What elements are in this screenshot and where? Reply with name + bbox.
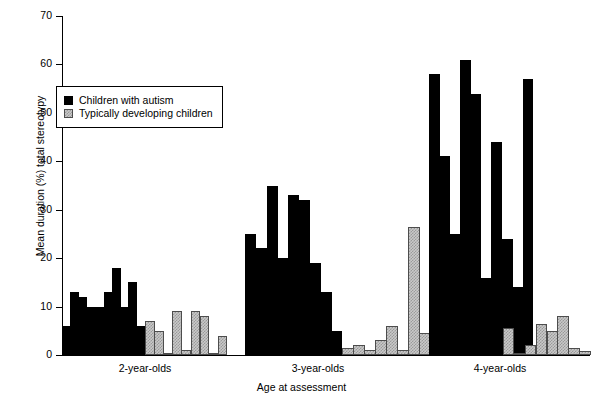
bar-autism-1-0: [245, 234, 256, 355]
bar-typical-0-3: [172, 311, 182, 355]
bar-typical-1-3: [375, 340, 387, 355]
y-tick-label-60: 60: [28, 58, 52, 68]
bar-autism-2-2: [450, 234, 461, 355]
bar-autism-1-5: [299, 200, 310, 355]
bar-typical-1-1: [353, 345, 365, 355]
bar-typical-2-6: [568, 348, 579, 355]
bar-autism-1-3: [277, 258, 288, 355]
group-label-3-year-olds: 3-year-olds: [278, 362, 358, 374]
legend-item-autism: Children with autism: [64, 95, 213, 106]
x-axis-title: Age at assessment: [0, 381, 603, 393]
bar-chart-figure: Mean duration (%) total stereotypy 01020…: [0, 0, 603, 397]
bar-typical-1-2: [364, 350, 376, 355]
group-label-2-year-olds: 2-year-olds: [105, 362, 185, 374]
y-tick-label-30: 30: [28, 204, 52, 214]
bar-autism-1-1: [256, 248, 267, 355]
bar-typical-2-4: [547, 331, 558, 355]
y-tick-label-70: 70: [28, 10, 52, 20]
bar-typical-0-1: [154, 331, 164, 355]
chart-legend: Children with autism Typically developin…: [56, 86, 223, 128]
bar-typical-0-6: [200, 316, 210, 355]
bar-typical-1-6: [408, 227, 420, 355]
y-tick-label-20: 20: [28, 252, 52, 262]
bar-autism-2-1: [439, 156, 450, 355]
bar-typical-1-4: [386, 326, 398, 355]
legend-swatch-typical-icon: [64, 109, 73, 118]
bars-layer: [62, 16, 590, 355]
bar-typical-2-3: [536, 324, 547, 355]
bar-autism-1-8: [331, 331, 342, 355]
y-tick-label-10: 10: [28, 301, 52, 311]
bar-autism-2-9: [523, 79, 534, 355]
y-tick-label-0: 0: [28, 349, 52, 359]
legend-label-autism: Children with autism: [79, 95, 174, 106]
bar-typical-2-1: [514, 353, 525, 355]
bar-typical-1-0: [342, 348, 354, 355]
bar-autism-1-7: [320, 292, 331, 355]
y-tick-label-40: 40: [28, 155, 52, 165]
bar-autism-2-6: [491, 142, 502, 355]
bar-autism-2-0: [429, 74, 440, 355]
bar-typical-0-8: [218, 336, 228, 355]
legend-item-typical: Typically developing children: [64, 108, 213, 119]
group-label-4-year-olds: 4-year-olds: [460, 362, 540, 374]
bar-autism-1-2: [267, 186, 278, 356]
bar-autism-1-4: [288, 195, 299, 355]
bar-autism-1-6: [310, 263, 321, 355]
y-tick-mark-0: [56, 355, 62, 356]
bar-autism-2-4: [471, 94, 482, 356]
x-axis-line: [62, 355, 590, 356]
bar-autism-2-5: [481, 278, 492, 355]
bar-typical-2-7: [579, 351, 590, 355]
bar-typical-1-5: [397, 350, 409, 355]
bar-typical-2-2: [525, 345, 536, 355]
bar-typical-2-5: [557, 316, 568, 355]
legend-swatch-autism-icon: [64, 96, 73, 105]
legend-label-typical: Typically developing children: [79, 108, 213, 119]
bar-autism-2-3: [460, 60, 471, 355]
y-tick-label-50: 50: [28, 107, 52, 117]
bar-typical-2-0: [503, 328, 514, 355]
